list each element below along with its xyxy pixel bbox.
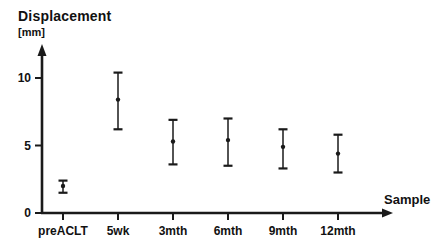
mean-point <box>116 97 120 101</box>
mean-point <box>336 151 340 155</box>
x-tick-label: 5wk <box>107 224 130 238</box>
x-tick-label: 6mth <box>214 224 243 238</box>
x-tick-label: 3mth <box>159 224 188 238</box>
y-axis-arrowhead <box>38 44 47 56</box>
y-tick-label: 0 <box>24 206 31 220</box>
mean-point <box>61 184 65 188</box>
mean-point <box>281 145 285 149</box>
y-tick-label: 10 <box>18 71 32 85</box>
x-tick-label: preACLT <box>38 224 88 238</box>
mean-point <box>171 139 175 143</box>
y-tick-label: 5 <box>24 139 31 153</box>
chart-canvas: 0510preACLT5wk3mth6mth9mth12mth <box>0 0 442 249</box>
x-tick-label: 12mth <box>320 224 355 238</box>
x-tick-label: 9mth <box>269 224 298 238</box>
mean-point <box>226 138 230 142</box>
x-axis-arrowhead <box>382 209 393 218</box>
displacement-errorbar-figure: Displacement [mm] Sample 0510preACLT5wk3… <box>0 0 442 249</box>
